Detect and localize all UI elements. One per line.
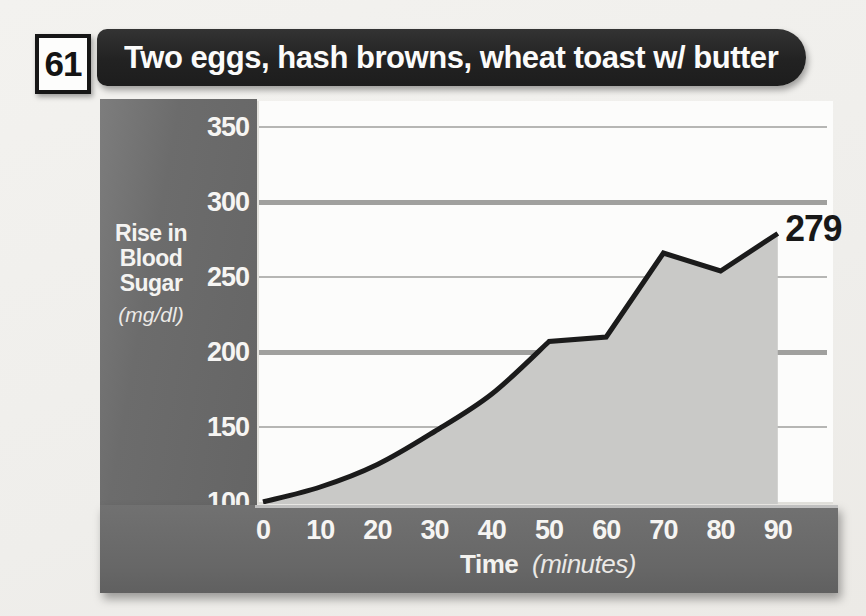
x-tick-label: 30: [407, 515, 463, 546]
y-axis-label-line1: Rise in: [106, 221, 196, 246]
blood-sugar-curve: [257, 101, 833, 504]
x-axis-units: (minutes): [532, 549, 636, 579]
figure-number: 61: [45, 44, 82, 84]
x-tick-label: 90: [750, 515, 806, 546]
y-tick-label: 150: [207, 413, 249, 441]
y-axis-units: (mg/dl): [106, 302, 196, 327]
y-axis-panel: Rise in Blood Sugar (mg/dl) 350300250200…: [100, 99, 257, 507]
scanned-book-figure: 61 Two eggs, hash browns, wheat toast w/…: [0, 0, 866, 616]
chart-panel: Rise in Blood Sugar (mg/dl) 350300250200…: [100, 99, 838, 593]
x-tick-label: 60: [578, 515, 634, 546]
x-axis-panel: 0102030405060708090 Time (minutes): [100, 505, 838, 593]
x-axis-label: Time (minutes): [263, 549, 833, 580]
x-tick-label: 40: [464, 515, 520, 546]
y-tick-label: 350: [207, 113, 249, 141]
x-axis-label-text: Time: [460, 549, 518, 579]
x-tick-label: 20: [349, 515, 405, 546]
y-tick-label: 200: [207, 338, 249, 366]
peak-value-label: 279: [785, 208, 841, 250]
y-axis-label-line3: Sugar: [106, 271, 196, 296]
title-banner: Two eggs, hash browns, wheat toast w/ bu…: [97, 29, 806, 86]
x-tick-label: 10: [292, 515, 348, 546]
x-tick-label: 80: [693, 515, 749, 546]
y-axis-label: Rise in Blood Sugar (mg/dl): [106, 221, 196, 327]
y-tick-label: 250: [207, 263, 249, 291]
y-tick-label: 300: [207, 188, 249, 216]
x-tick-label: 0: [235, 515, 291, 546]
x-tick-label: 70: [635, 515, 691, 546]
plot-area: 279: [257, 101, 833, 504]
figure-number-box: 61: [35, 34, 91, 94]
x-tick-label: 50: [521, 515, 577, 546]
chart-title: Two eggs, hash browns, wheat toast w/ bu…: [124, 39, 778, 76]
y-axis-label-line2: Blood: [106, 246, 196, 271]
